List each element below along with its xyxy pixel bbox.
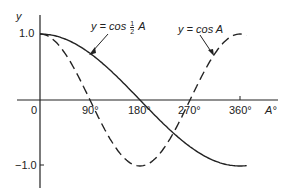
- x-tick-270: 270°: [178, 104, 201, 116]
- x-tick-90: 90°: [82, 104, 99, 116]
- legend-cos-a: y = cos A: [178, 23, 223, 35]
- x-axis-label: A°: [265, 104, 277, 116]
- legend-cos-half-a: y = cos 12 A: [91, 20, 146, 35]
- arrowhead-half: [89, 47, 96, 55]
- x-tick-360: 360°: [229, 104, 252, 116]
- origin-label: 0: [31, 104, 37, 116]
- fraction-half: 12: [130, 20, 134, 35]
- eq-half-prefix: y = cos: [91, 20, 126, 32]
- y-tick-1: 1.0: [19, 27, 34, 39]
- arrowhead-full: [208, 49, 214, 56]
- chart-canvas: [0, 0, 292, 192]
- frac-num: 1: [130, 20, 134, 28]
- y-tick-neg1: −1.0: [15, 159, 37, 171]
- eq-half-suffix: A: [138, 20, 145, 32]
- x-tick-180: 180°: [128, 104, 151, 116]
- y-axis-label: y: [16, 10, 22, 22]
- frac-den: 2: [130, 28, 134, 35]
